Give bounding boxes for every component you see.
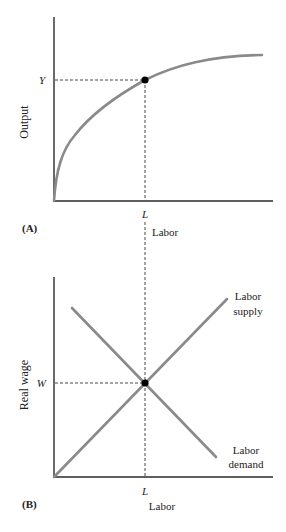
labor-supply-line [54, 299, 227, 477]
panel-b-x-label: Labor [149, 500, 176, 512]
equilibrium-point [141, 379, 148, 386]
panel-b-x-marker: L [141, 485, 148, 497]
panel-b-y-label: Real wage [17, 360, 31, 410]
labor-market-diagram: Y L Labor (A) Output Labor supply Labor … [0, 0, 286, 532]
panel-b-tag: (B) [22, 498, 37, 511]
panel-a-x-label: Labor [152, 226, 179, 238]
panel-a-x-marker: L [141, 208, 148, 220]
demand-label-line2: demand [229, 458, 264, 470]
panel-a-point [141, 76, 148, 83]
panel-a-tag: (A) [22, 222, 38, 235]
panel-b-y-marker: W [37, 377, 47, 389]
panel-a-y-label: Output [17, 105, 31, 139]
supply-label-line2: supply [233, 305, 263, 317]
panel-a: Y L Labor (A) Output [17, 17, 273, 238]
demand-label-line1: Labor [233, 444, 260, 456]
production-curve [54, 55, 262, 201]
panel-a-y-marker: Y [39, 74, 47, 86]
supply-label-line1: Labor [235, 290, 262, 302]
